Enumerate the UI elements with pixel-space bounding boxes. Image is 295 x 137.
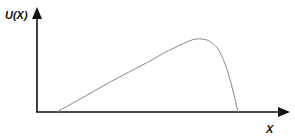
diagram-canvas (0, 0, 295, 137)
y-axis-arrow-icon (32, 7, 42, 19)
utility-curve (57, 39, 238, 112)
y-axis-label: U(X) (5, 9, 28, 21)
x-axis-arrow-icon (278, 107, 290, 117)
x-axis-label: X (266, 123, 273, 135)
